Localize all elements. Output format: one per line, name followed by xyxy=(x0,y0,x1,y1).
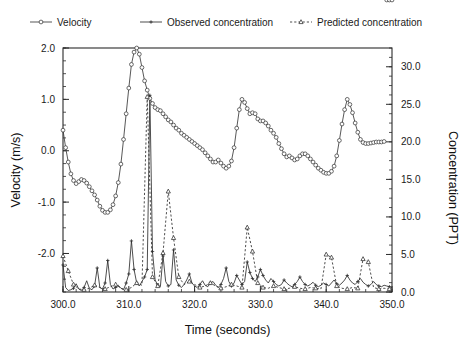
y2-tick-label: 10.0 xyxy=(401,211,421,222)
predicted-marker xyxy=(82,287,86,291)
series-line-velocity xyxy=(63,48,384,212)
predicted-marker xyxy=(61,254,65,258)
predicted-marker xyxy=(71,282,75,286)
y2-tick-label: 5.0 xyxy=(401,249,415,260)
velocity-marker xyxy=(111,203,115,207)
velocity-marker xyxy=(108,208,112,212)
velocity-marker xyxy=(130,63,134,67)
predicted-marker xyxy=(345,287,349,291)
y-tick-label: 0.0 xyxy=(41,145,55,156)
velocity-marker xyxy=(237,108,241,112)
predicted-marker xyxy=(329,255,333,259)
velocity-marker xyxy=(245,107,249,111)
velocity-marker xyxy=(66,160,70,164)
predicted-marker xyxy=(256,281,260,285)
predicted-marker xyxy=(240,285,244,289)
predicted-marker xyxy=(361,257,365,261)
velocity-marker xyxy=(61,128,65,132)
velocity-marker xyxy=(253,112,257,116)
velocity-marker xyxy=(230,159,234,163)
legend-label-2: Predicted concentration xyxy=(317,17,422,28)
predicted-marker xyxy=(366,260,370,264)
velocity-marker xyxy=(98,204,102,208)
x-axis-title: Time (seconds) xyxy=(185,323,271,337)
velocity-marker xyxy=(69,172,73,176)
velocity-marker xyxy=(145,88,149,92)
predicted-marker xyxy=(124,287,128,291)
y-tick-label: -2.0 xyxy=(38,248,56,259)
velocity-marker xyxy=(390,0,394,2)
x-tick-label: 320.0 xyxy=(182,299,207,310)
predicted-marker xyxy=(114,282,118,286)
velocity-marker xyxy=(274,135,278,139)
velocity-marker xyxy=(340,122,344,126)
velocity-marker xyxy=(266,124,270,128)
legend-label-1: Observed concentration xyxy=(167,17,273,28)
x-tick-label: 300.0 xyxy=(50,299,75,310)
velocity-marker xyxy=(135,46,139,50)
velocity-marker xyxy=(124,112,128,116)
predicted-marker xyxy=(324,252,328,256)
velocity-marker xyxy=(356,130,360,134)
predicted-marker xyxy=(303,287,307,291)
velocity-marker xyxy=(332,164,336,168)
velocity-marker xyxy=(93,193,97,197)
velocity-marker xyxy=(330,169,334,173)
y-tick-label: -1.0 xyxy=(38,197,56,208)
predicted-marker xyxy=(135,281,139,285)
velocity-marker xyxy=(132,50,136,54)
velocity-marker xyxy=(232,146,236,150)
velocity-marker xyxy=(280,147,284,151)
chart-figure: 300.0310.0320.0330.0340.0350.0Time (seco… xyxy=(0,0,464,350)
y2-tick-label: 30.0 xyxy=(401,61,421,72)
y2-tick-label: 15.0 xyxy=(401,174,421,185)
velocity-marker xyxy=(243,101,247,105)
velocity-marker xyxy=(95,198,99,202)
velocity-concentration-chart: 300.0310.0320.0330.0340.0350.0Time (seco… xyxy=(0,0,464,350)
velocity-marker xyxy=(343,108,347,112)
legend-marker-2 xyxy=(299,20,303,24)
y-tick-label: 1.0 xyxy=(41,94,55,105)
velocity-marker xyxy=(122,138,126,142)
velocity-marker xyxy=(151,102,155,106)
predicted-marker xyxy=(208,281,212,285)
predicted-marker xyxy=(245,225,249,229)
predicted-marker xyxy=(282,287,286,291)
x-tick-label: 340.0 xyxy=(314,299,339,310)
legend-label-0: Velocity xyxy=(57,17,91,28)
velocity-marker xyxy=(351,111,355,115)
predicted-marker xyxy=(377,287,381,291)
velocity-marker xyxy=(140,66,144,70)
velocity-marker xyxy=(85,181,89,185)
x-tick-label: 310.0 xyxy=(116,299,141,310)
predicted-marker xyxy=(356,286,360,290)
velocity-marker xyxy=(127,86,131,90)
velocity-marker xyxy=(114,194,118,198)
velocity-marker xyxy=(353,121,357,125)
predicted-marker xyxy=(166,189,170,193)
y-tick-label: 2.0 xyxy=(41,43,55,54)
predicted-marker xyxy=(66,269,70,273)
y2-tick-label: 20.0 xyxy=(401,136,421,147)
legend-marker-0 xyxy=(39,20,43,24)
predicted-marker xyxy=(92,283,96,287)
velocity-marker xyxy=(64,146,68,150)
velocity-marker xyxy=(348,103,352,107)
velocity-marker xyxy=(119,162,123,166)
velocity-marker xyxy=(87,185,91,189)
velocity-marker xyxy=(337,139,341,143)
velocity-marker xyxy=(382,140,386,144)
velocity-marker xyxy=(90,189,94,193)
velocity-marker xyxy=(137,52,141,56)
y2-tick-label: 0.0 xyxy=(401,287,415,298)
velocity-marker xyxy=(227,164,231,168)
velocity-marker xyxy=(235,126,239,130)
predicted-marker xyxy=(150,275,154,279)
y2-tick-label: 25.0 xyxy=(401,99,421,110)
predicted-marker xyxy=(250,249,254,253)
velocity-marker xyxy=(335,154,339,158)
predicted-marker xyxy=(293,284,297,288)
velocity-marker xyxy=(116,181,120,185)
x-tick-label: 330.0 xyxy=(248,299,273,310)
x-tick-label: 350.0 xyxy=(379,299,404,310)
